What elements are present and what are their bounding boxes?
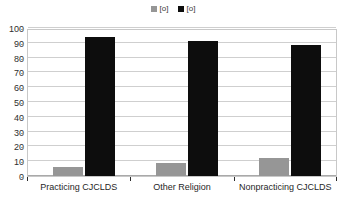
bar-group [235,30,338,176]
bar [53,167,83,176]
y-tick-mark-70 [21,73,24,74]
bar [259,158,289,176]
x-axis-separators [27,177,337,181]
y-tick-mark-90 [21,44,24,45]
y-tick-mark-50 [21,103,24,104]
y-axis: 1009080706050403020100 [0,29,24,177]
legend-entry-series-b: [o] [178,5,196,13]
y-tick-mark-80 [21,59,24,60]
legend-swatch-series-b [178,6,184,12]
y-tick-mark-30 [21,133,24,134]
bar-group [131,30,234,176]
y-tick-mark-10 [21,162,24,163]
legend-label-series-a: [o] [160,5,169,13]
x-axis-labels: Practicing CJCLDSOther ReligionNonpracti… [27,182,337,210]
y-tick-mark-60 [21,88,24,89]
chart-legend: [o] [o] [0,2,346,16]
y-tick-mark-20 [21,147,24,148]
y-tick-mark-0 [21,177,24,178]
x-axis-tick [130,177,131,181]
gridline-100 [28,27,336,28]
x-axis-label: Practicing CJCLDS [27,182,130,193]
x-axis-label: Other Religion [130,182,233,193]
x-axis-tick [27,177,28,181]
bar [291,45,321,176]
bar [85,37,115,176]
bars-layer [28,30,336,176]
bar-group [28,30,131,176]
x-axis-tick [234,177,235,181]
plot-area [27,29,337,177]
legend-swatch-series-a [151,6,157,12]
x-axis-label: Nonpracticing CJCLDS [234,182,337,193]
legend-entry-series-a: [o] [151,5,169,13]
x-axis-tick [336,177,337,181]
legend-label-series-b: [o] [187,5,196,13]
y-tick-mark-100 [21,29,24,30]
bar [188,41,218,176]
y-tick-mark-40 [21,118,24,119]
bar [156,163,186,176]
bar-chart: [o] [o] 1009080706050403020100 Practicin… [0,0,346,210]
